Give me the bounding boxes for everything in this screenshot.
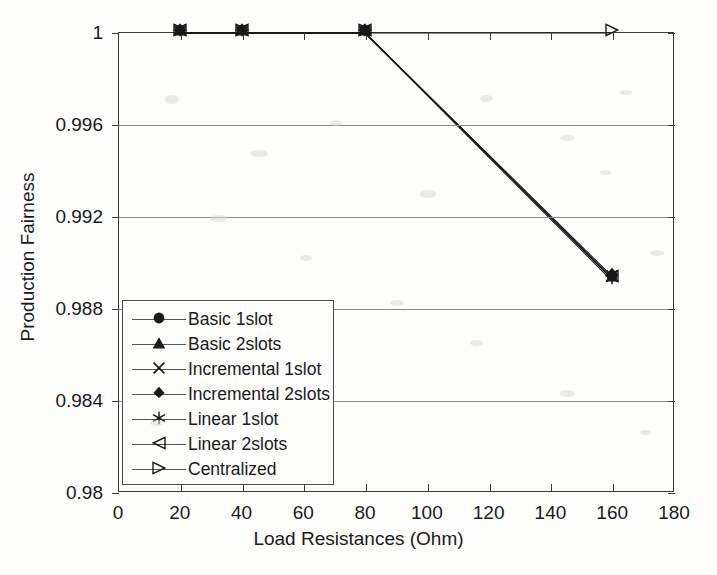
y-tick-mark — [112, 401, 119, 402]
y-tick-mark-right — [668, 125, 675, 126]
gridline-y — [119, 217, 673, 218]
legend-item-incremental-1slot[interactable]: Incremental 1slot — [123, 357, 333, 382]
scan-artifact — [420, 190, 436, 198]
y-tick-mark — [112, 217, 119, 218]
x-tick-mark — [551, 484, 552, 491]
y-tick-label: 0.988 — [0, 299, 103, 318]
series-line — [181, 33, 612, 280]
x-tick-label: 180 — [634, 503, 714, 522]
series-line — [181, 33, 612, 278]
legend-marker-sample — [130, 384, 188, 406]
scan-artifact — [300, 255, 312, 261]
legend-marker-sample — [130, 309, 188, 331]
x-tick-mark-top — [490, 33, 491, 40]
scan-artifact — [150, 420, 163, 426]
y-tick-label: 0.992 — [0, 207, 103, 226]
y-tick-mark-right — [668, 309, 675, 310]
x-tick-mark-top — [366, 33, 367, 40]
y-axis-label: Production Fairness — [17, 137, 39, 377]
series-line — [181, 33, 612, 276]
x-tick-mark — [304, 484, 305, 491]
y-tick-mark — [112, 493, 119, 494]
y-tick-label: 1 — [0, 23, 103, 42]
legend-item-label: Centralized — [188, 461, 277, 479]
legend-item-label: Basic 2slots — [188, 336, 281, 354]
series-line — [181, 33, 612, 278]
x-tick-mark — [181, 484, 182, 491]
legend-marker-sample — [130, 459, 188, 481]
scan-artifact — [210, 215, 227, 222]
y-tick-mark — [112, 33, 119, 34]
scan-artifact — [165, 95, 179, 104]
scan-artifact — [560, 135, 575, 141]
legend-item-linear-2slots[interactable]: Linear 2slots — [123, 432, 333, 457]
y-tick-mark — [112, 125, 119, 126]
y-tick-label: 0.984 — [0, 391, 103, 410]
scan-artifact — [250, 150, 268, 157]
y-tick-mark-right — [668, 33, 675, 34]
y-tick-mark-right — [668, 493, 675, 494]
legend-item-label: Basic 1slot — [188, 311, 273, 329]
scan-artifact — [650, 250, 664, 256]
scan-artifact — [390, 300, 404, 306]
legend-item-incremental-2slots[interactable]: Incremental 2slots — [123, 382, 333, 407]
x-tick-mark — [613, 484, 614, 491]
gridline-y — [119, 125, 673, 126]
legend-marker-sample — [130, 434, 188, 456]
scan-artifact — [560, 390, 575, 397]
x-tick-mark-top — [613, 33, 614, 40]
legend-item-label: Incremental 1slot — [188, 361, 321, 379]
legend-item-centralized[interactable]: Centralized — [123, 457, 333, 482]
circle-filled-icon — [152, 310, 167, 329]
x-tick-mark — [428, 484, 429, 491]
series-line — [181, 33, 612, 278]
legend-marker-sample — [130, 359, 188, 381]
y-tick-mark-right — [668, 401, 675, 402]
legend-marker-sample — [130, 334, 188, 356]
x-tick-mark-top — [428, 33, 429, 40]
x-axis-label: Load Resistances (Ohm) — [0, 528, 717, 550]
scan-artifact — [600, 170, 611, 175]
scan-artifact — [620, 90, 632, 95]
y-tick-mark — [112, 309, 119, 310]
legend-item-basic-2slots[interactable]: Basic 2slots — [123, 332, 333, 357]
x-tick-mark-top — [551, 33, 552, 40]
x-tick-mark — [366, 484, 367, 491]
legend-item-basic-1slot[interactable]: Basic 1slot — [123, 307, 333, 332]
legend-item-label: Incremental 2slots — [188, 386, 330, 404]
triangle-up-filled-icon — [152, 335, 167, 354]
scan-artifact — [640, 430, 651, 435]
triangle-right-open-icon — [152, 460, 167, 479]
y-tick-label: 0.996 — [0, 115, 103, 134]
x-tick-mark-top — [181, 33, 182, 40]
scan-artifact — [470, 340, 483, 346]
x-tick-mark — [243, 484, 244, 491]
cross-x-icon — [152, 360, 167, 379]
chart-figure: Production Fairness Basic 1slotBasic 2sl… — [0, 0, 717, 575]
scan-artifact — [480, 95, 493, 102]
x-tick-mark-top — [304, 33, 305, 40]
y-tick-label: 0.98 — [0, 483, 103, 502]
x-tick-mark — [490, 484, 491, 491]
diamond-filled-icon — [152, 385, 167, 404]
series-line — [181, 33, 612, 278]
scan-artifact — [330, 120, 342, 126]
x-tick-mark-top — [243, 33, 244, 40]
legend-item-label: Linear 2slots — [188, 436, 287, 454]
y-tick-mark-right — [668, 217, 675, 218]
legend-item-label: Linear 1slot — [188, 411, 278, 429]
triangle-left-open-icon — [152, 435, 167, 454]
chart-legend: Basic 1slotBasic 2slotsIncremental 1slot… — [122, 300, 334, 485]
